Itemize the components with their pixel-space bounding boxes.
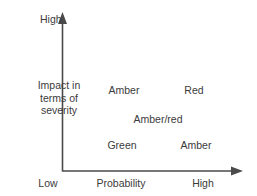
right-arrow-icon: [231, 167, 243, 176]
matrix-cell-red: Red: [184, 84, 203, 97]
y-axis-title: Impact in terms of severity: [31, 79, 87, 117]
matrix-cell-amber-high-impact: Amber: [109, 84, 140, 97]
x-axis-high-label: High: [192, 177, 214, 190]
matrix-cell-green: Green: [107, 139, 136, 152]
y-axis-title-line-3: severity: [31, 104, 87, 117]
x-axis-low-label: Low: [38, 177, 57, 190]
y-axis-title-line-2: terms of: [31, 92, 87, 105]
y-axis-high-label: High: [40, 13, 62, 26]
matrix-cell-amber-red: Amber/red: [133, 113, 182, 126]
risk-matrix-diagram: High Impact in terms of severity Low Pro…: [0, 0, 257, 196]
x-axis-title: Probability: [96, 177, 145, 190]
matrix-cell-amber-low-impact: Amber: [181, 139, 212, 152]
y-axis-title-line-1: Impact in: [31, 79, 87, 92]
